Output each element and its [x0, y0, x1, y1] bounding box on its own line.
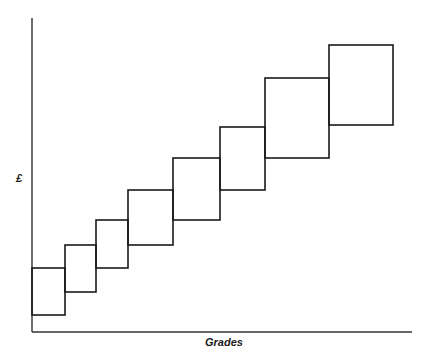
y-axis-label: £: [16, 172, 22, 184]
pay-band-grade-7: [265, 78, 329, 158]
pay-band-grade-2: [65, 245, 96, 292]
pay-band-grade-5: [173, 158, 220, 220]
pay-band-grade-8: [329, 45, 393, 125]
pay-band-grade-1: [32, 268, 65, 315]
pay-band-grade-6: [220, 127, 265, 190]
pay-band-grade-3: [96, 220, 128, 268]
pay-bands: [32, 45, 393, 315]
pay-band-grade-4: [128, 190, 173, 245]
x-axis-label: Grades: [205, 336, 243, 348]
pay-band-diagram: [0, 0, 425, 363]
